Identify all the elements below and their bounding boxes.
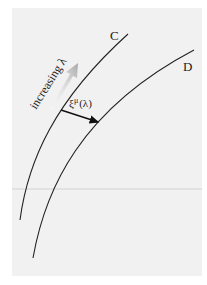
background-panel — [12, 8, 202, 276]
deviation-vector-label: ξμ(λ) — [69, 96, 92, 110]
curve-c-label: C — [110, 28, 119, 43]
curve-d-label: D — [183, 59, 192, 74]
mu-superscript: μ — [74, 96, 78, 105]
faint-band — [12, 188, 202, 190]
geodesic-deviation-diagram: C D increasing λ ξμ(λ) — [0, 0, 207, 285]
lambda-argument: (λ) — [79, 97, 92, 110]
